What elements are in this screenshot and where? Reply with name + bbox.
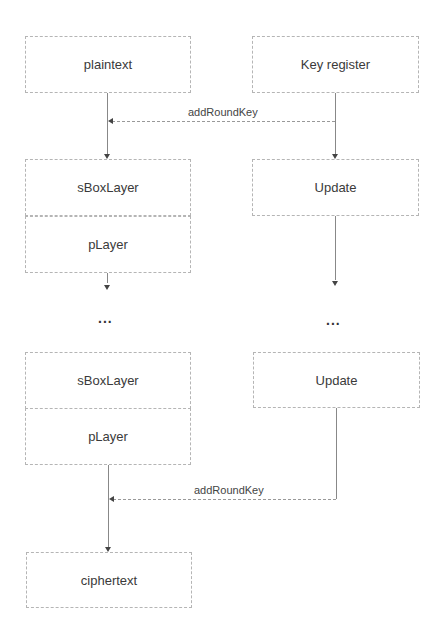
add-round-key-label-1: addRoundKey	[188, 106, 258, 118]
update-box-1: Update	[252, 159, 419, 216]
add-round-key-label-2: addRoundKey	[194, 484, 264, 496]
sboxlayer-label-1: sBoxLayer	[77, 180, 138, 195]
key-register-box: Key register	[252, 36, 419, 93]
plaintext-label: plaintext	[84, 57, 132, 72]
arrow-down-icon	[104, 154, 110, 159]
ciphertext-label: ciphertext	[81, 573, 137, 588]
arrow-left-icon	[109, 496, 114, 502]
player-label-2: pLayer	[88, 429, 128, 444]
arrow-left-icon	[108, 118, 113, 124]
ellipsis-right: ...	[326, 312, 341, 328]
connector-update-ellipsis	[335, 216, 336, 280]
arrow-down-icon	[105, 547, 111, 552]
sboxlayer-box-1: sBoxLayer	[25, 159, 191, 216]
arrow-down-icon	[332, 154, 338, 159]
connector-update2-down	[336, 408, 337, 499]
ciphertext-box: ciphertext	[26, 552, 192, 608]
player-box-2: pLayer	[25, 408, 191, 465]
connector-player-ciphertext	[108, 465, 109, 548]
sboxlayer-label-2: sBoxLayer	[77, 373, 138, 388]
add-round-key-edge-1	[112, 121, 335, 122]
ellipsis-left: ...	[98, 310, 113, 326]
update-box-2: Update	[253, 352, 420, 408]
connector-plaintext-sbox	[107, 93, 108, 155]
connector-keyreg-update	[335, 93, 336, 155]
arrow-down-icon	[104, 285, 110, 290]
add-round-key-edge-2	[113, 499, 336, 500]
player-box-1: pLayer	[25, 216, 191, 273]
sboxlayer-box-2: sBoxLayer	[25, 352, 191, 409]
update-label-1: Update	[315, 180, 357, 195]
connector-player-ellipsis	[107, 273, 108, 283]
player-label-1: pLayer	[88, 237, 128, 252]
arrow-down-icon	[332, 281, 338, 286]
update-label-2: Update	[316, 373, 358, 388]
plaintext-box: plaintext	[25, 36, 191, 93]
key-register-label: Key register	[301, 57, 370, 72]
